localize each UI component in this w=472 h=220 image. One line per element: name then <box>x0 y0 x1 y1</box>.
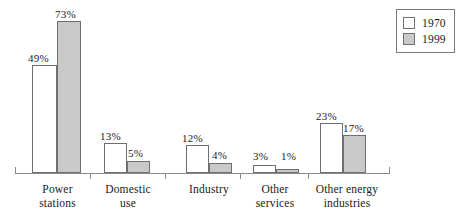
bar-chart: 49% 73% 13% 5% 12% 4% 3% 1% 23% 17% Po <box>0 0 472 220</box>
x-axis-tick <box>240 174 241 179</box>
x-axis-label-other-services: Other services <box>244 182 306 210</box>
x-axis-label-power-stations: Power stations <box>25 182 90 210</box>
bar-1970-domestic-use <box>104 143 127 173</box>
bar-value-1999-industry: 4% <box>212 149 227 161</box>
legend-item-1970: 1970 <box>403 15 446 31</box>
legend: 1970 1999 <box>396 9 455 53</box>
x-axis-label-other-energy-industries: Other energy industries <box>305 182 389 210</box>
x-axis-endcap-right <box>389 167 390 173</box>
x-axis-endcap-left <box>15 167 16 173</box>
x-axis-tick <box>90 174 91 179</box>
bar-value-1970-power-stations: 49% <box>28 52 49 64</box>
legend-label-1999: 1999 <box>422 33 446 45</box>
legend-swatch-1999 <box>403 33 415 45</box>
bar-1999-industry <box>209 163 232 173</box>
bar-1970-power-stations <box>32 65 57 173</box>
legend-item-1999: 1999 <box>403 31 446 47</box>
bar-1999-domestic-use <box>127 161 150 173</box>
x-axis-label-domestic-use: Domestic use <box>95 182 161 210</box>
bar-value-1999-other-services: 1% <box>281 150 296 162</box>
bar-value-1999-domestic-use: 5% <box>128 147 143 159</box>
bar-1999-other-energy-industries <box>343 135 366 173</box>
x-axis-tick <box>308 174 309 179</box>
bar-1970-other-services <box>253 165 276 173</box>
legend-swatch-1970 <box>403 17 415 29</box>
bar-value-1999-other-energy-industries: 17% <box>343 122 364 134</box>
legend-label-1970: 1970 <box>422 17 446 29</box>
bar-value-1970-other-energy-industries: 23% <box>316 110 337 122</box>
bar-1970-other-energy-industries <box>320 123 343 173</box>
x-axis-tick <box>165 174 166 179</box>
bar-1970-industry <box>186 145 209 173</box>
x-axis-label-industry: Industry <box>178 182 240 196</box>
bar-value-1970-domestic-use: 13% <box>100 130 121 142</box>
bar-value-1999-power-stations: 73% <box>55 8 76 20</box>
bar-1999-power-stations <box>57 21 81 173</box>
bar-value-1970-industry: 12% <box>182 132 203 144</box>
x-axis-line <box>15 173 390 174</box>
bar-value-1970-other-services: 3% <box>253 150 268 162</box>
